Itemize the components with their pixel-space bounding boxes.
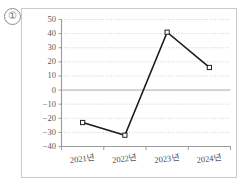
figure-frame: 50403020100−10−20−30−402021년2022년2023년20… xyxy=(21,8,237,178)
y-axis-tick-label: −20 xyxy=(43,113,56,123)
y-axis-tick-label: 40 xyxy=(48,28,57,38)
x-axis-tick-label: 2023년 xyxy=(154,152,180,165)
y-axis-tick-label: 20 xyxy=(48,56,57,66)
y-axis-tick-label: 30 xyxy=(48,42,57,52)
y-axis-tick-label: −30 xyxy=(43,127,56,137)
y-axis-tick-label: 50 xyxy=(48,14,57,24)
chart-plot-area: 50403020100−10−20−30−402021년2022년2023년20… xyxy=(22,9,238,179)
data-point-marker xyxy=(165,30,169,34)
y-axis-tick-label: −40 xyxy=(43,141,56,151)
x-axis-tick-label: 2022년 xyxy=(111,152,137,165)
x-axis-tick-label: 2021년 xyxy=(69,152,95,165)
line-chart-svg: 50403020100−10−20−30−402021년2022년2023년20… xyxy=(22,9,238,179)
y-axis-tick-label: 10 xyxy=(48,70,57,80)
data-point-marker xyxy=(207,65,211,69)
data-series-line xyxy=(83,32,210,135)
chart-figure-root: ① 50403020100−10−20−30−402021년2022년2023년… xyxy=(0,0,245,186)
data-point-marker xyxy=(81,120,85,124)
data-point-marker xyxy=(123,133,127,137)
figure-index-badge: ① xyxy=(4,8,21,25)
x-axis-tick-label: 2024년 xyxy=(196,152,222,165)
y-axis-tick-label: −10 xyxy=(43,99,56,109)
y-axis-tick-label: 0 xyxy=(52,85,56,95)
